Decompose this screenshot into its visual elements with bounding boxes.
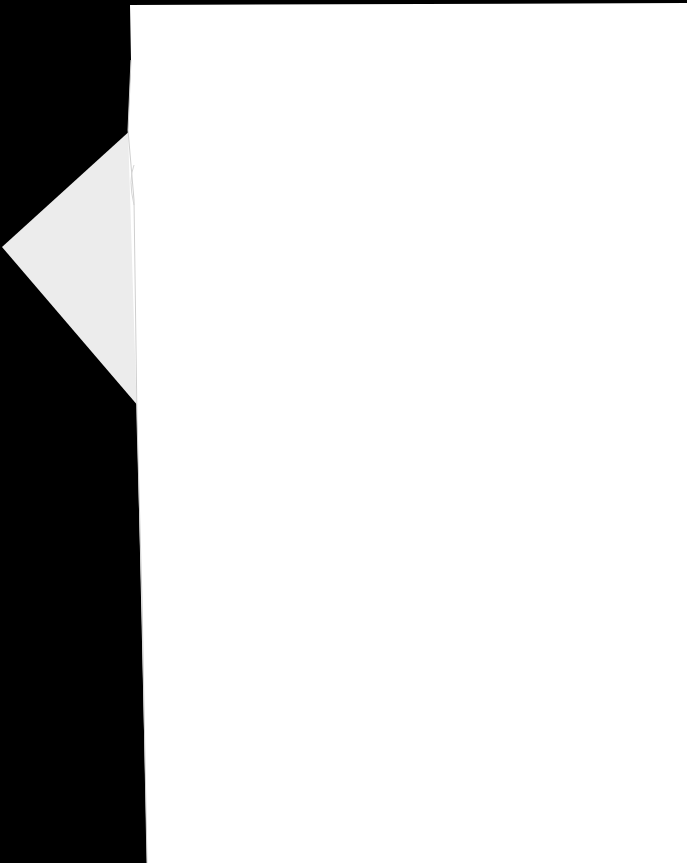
blank-page: [0, 0, 687, 863]
